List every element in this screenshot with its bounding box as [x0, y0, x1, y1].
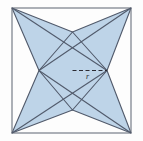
radius-label: r	[86, 73, 89, 81]
geometry-figure: r	[0, 0, 143, 141]
geometry-canvas	[0, 0, 143, 141]
